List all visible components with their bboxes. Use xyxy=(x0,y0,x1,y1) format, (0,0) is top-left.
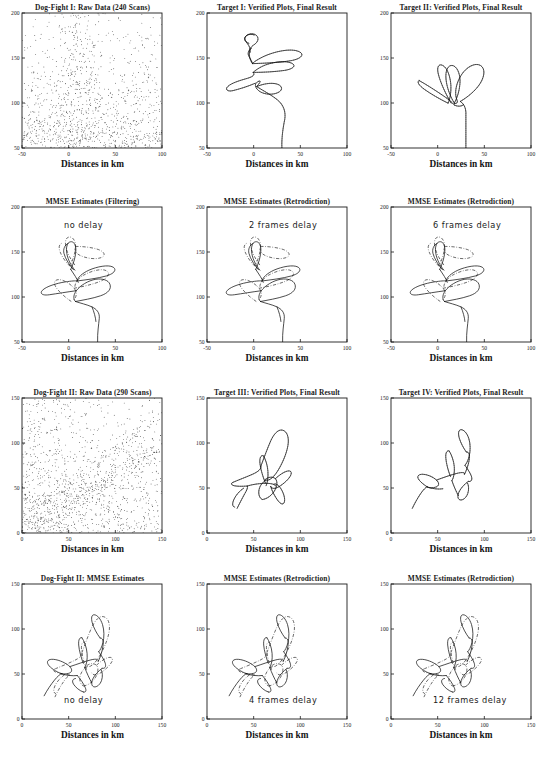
raw-plot-point xyxy=(32,86,33,87)
raw-plot-point xyxy=(137,109,138,110)
raw-plot-point xyxy=(37,457,38,458)
raw-plot-point xyxy=(89,89,90,90)
raw-plot-point xyxy=(57,481,58,482)
raw-plot-point xyxy=(133,489,134,490)
raw-plot-point xyxy=(133,73,134,74)
raw-plot-point xyxy=(94,477,95,478)
raw-plot-point xyxy=(139,487,140,488)
raw-plot-point xyxy=(153,417,154,418)
raw-plot-point xyxy=(122,81,123,82)
raw-plot-point xyxy=(35,528,36,529)
raw-plot-point xyxy=(44,419,45,420)
raw-plot-point xyxy=(90,103,91,104)
raw-plot-point xyxy=(113,484,114,485)
raw-plot-point xyxy=(39,498,40,499)
raw-plot-point xyxy=(151,54,152,55)
raw-plot-point xyxy=(93,122,94,123)
raw-plot-point xyxy=(44,501,45,502)
raw-plot-point xyxy=(72,512,73,513)
raw-plot-point xyxy=(40,142,41,143)
raw-plot-point xyxy=(146,450,147,451)
raw-plot-point xyxy=(132,75,133,76)
raw-plot-point xyxy=(92,141,93,142)
raw-plot-point xyxy=(145,99,146,100)
raw-plot-point xyxy=(89,493,90,494)
raw-plot-point xyxy=(140,500,141,501)
raw-plot-point xyxy=(90,139,91,140)
raw-plot-point xyxy=(34,441,35,442)
raw-plot-point xyxy=(148,463,149,464)
y-tick-label: 100 xyxy=(11,440,20,446)
raw-plot-point xyxy=(50,511,51,512)
raw-plot-point xyxy=(98,524,99,525)
plot-axes-r4c1: 050100150050100150 xyxy=(0,571,185,771)
raw-plot-point xyxy=(117,453,118,454)
raw-plot-point xyxy=(86,491,87,492)
raw-plot-point xyxy=(29,501,30,502)
raw-plot-point xyxy=(30,430,31,431)
raw-plot-point xyxy=(124,58,125,59)
raw-plot-point xyxy=(105,146,106,147)
raw-plot-point xyxy=(86,474,87,475)
trajectory-path xyxy=(55,280,77,302)
raw-plot-point xyxy=(108,413,109,414)
raw-plot-point xyxy=(25,514,26,515)
raw-plot-point xyxy=(90,131,91,132)
raw-plot-point xyxy=(79,110,80,111)
raw-plot-point xyxy=(159,419,160,420)
raw-plot-point xyxy=(44,120,45,121)
raw-plot-point xyxy=(136,131,137,132)
raw-plot-point xyxy=(37,527,38,528)
raw-plot-point xyxy=(125,143,126,144)
raw-plot-point xyxy=(85,499,86,500)
raw-plot-point xyxy=(85,525,86,526)
raw-plot-point xyxy=(113,140,114,141)
raw-plot-point xyxy=(93,47,94,48)
y-tick-label: 0 xyxy=(386,530,389,536)
raw-plot-point xyxy=(128,483,129,484)
raw-plot-point xyxy=(49,22,50,23)
x-tick-label: 150 xyxy=(343,722,352,728)
raw-plot-point xyxy=(52,455,53,456)
raw-plot-point xyxy=(69,111,70,112)
raw-plot-point xyxy=(112,459,113,460)
raw-plot-point xyxy=(110,40,111,41)
raw-plot-point xyxy=(25,482,26,483)
raw-plot-point xyxy=(80,53,81,54)
raw-plot-point xyxy=(78,97,79,98)
raw-plot-point xyxy=(88,528,89,529)
raw-plot-point xyxy=(154,463,155,464)
raw-plot-point xyxy=(68,530,69,531)
raw-plot-point xyxy=(157,420,158,421)
raw-plot-point xyxy=(56,123,57,124)
raw-plot-point xyxy=(35,427,36,428)
raw-plot-point xyxy=(114,116,115,117)
raw-plot-point xyxy=(49,460,50,461)
raw-plot-point xyxy=(76,84,77,85)
raw-plot-point xyxy=(27,136,28,137)
raw-plot-point xyxy=(125,462,126,463)
raw-plot-point xyxy=(39,527,40,528)
raw-plot-point xyxy=(55,453,56,454)
raw-plot-point xyxy=(50,129,51,130)
raw-plot-point xyxy=(56,509,57,510)
raw-plot-point xyxy=(102,113,103,114)
raw-plot-point xyxy=(124,140,125,141)
raw-plot-point xyxy=(146,449,147,450)
raw-plot-point xyxy=(81,44,82,45)
raw-plot-point xyxy=(118,426,119,427)
raw-plot-point xyxy=(96,482,97,483)
raw-plot-point xyxy=(49,496,50,497)
raw-plot-point xyxy=(142,100,143,101)
raw-plot-point xyxy=(39,437,40,438)
x-tick-label: 150 xyxy=(527,722,536,728)
raw-plot-point xyxy=(68,461,69,462)
raw-plot-point xyxy=(52,526,53,527)
raw-plot-point xyxy=(134,500,135,501)
raw-plot-point xyxy=(28,120,29,121)
raw-plot-point xyxy=(94,147,95,148)
raw-plot-point xyxy=(98,465,99,466)
raw-plot-point xyxy=(81,129,82,130)
raw-plot-point xyxy=(56,90,57,91)
raw-plot-point xyxy=(50,520,51,521)
